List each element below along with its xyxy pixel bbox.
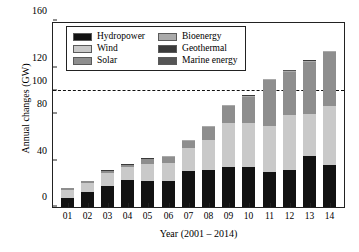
chart-legend: HydropowerBioenergyWindGeothermalSolarMa… — [66, 26, 246, 71]
bar-segment-solar-14 — [323, 52, 336, 105]
legend-swatch-solar — [73, 57, 92, 65]
x-tick-mark-14 — [330, 203, 331, 207]
bar-segment-solar-08 — [202, 127, 215, 140]
x-tick-label-10: 10 — [244, 211, 254, 221]
legend-item-bioenergy[interactable]: Bioenergy — [158, 31, 237, 42]
x-tick-label-11: 11 — [265, 211, 274, 221]
bar-segment-wind-09 — [222, 123, 235, 167]
legend-swatch-wind — [73, 45, 92, 53]
x-tick-label-14: 14 — [325, 211, 335, 221]
bar-segment-solar-11 — [263, 80, 276, 125]
bar-segment-solar-09 — [222, 106, 235, 123]
bar-segment-wind-11 — [263, 126, 276, 173]
legend-label-hydropower: Hydropower — [97, 31, 145, 42]
x-tick-mark-02 — [88, 203, 89, 207]
bar-segment-hydropower-14 — [323, 165, 336, 207]
legend-item-hydropower[interactable]: Hydropower — [73, 31, 145, 42]
bar-column-13[interactable] — [303, 23, 316, 207]
y-tick-label-80: 80 — [13, 98, 53, 109]
x-tick-label-06: 06 — [164, 211, 174, 221]
chart-figure: Annual changes (GW) Year (2001 – 2014) 0… — [0, 0, 359, 252]
x-tick-label-08: 08 — [204, 211, 214, 221]
y-tick-label-120: 120 — [13, 51, 53, 62]
bar-segment-wind-08 — [202, 140, 215, 170]
x-tick-mark-13 — [310, 203, 311, 207]
x-tick-label-05: 05 — [143, 211, 153, 221]
bar-segment-wind-02 — [81, 183, 94, 192]
bar-segment-hydropower-12 — [283, 170, 296, 207]
legend-item-wind[interactable]: Wind — [73, 43, 145, 54]
legend-swatch-geothermal — [158, 45, 177, 53]
legend-label-bioenergy: Bioenergy — [182, 31, 221, 42]
x-tick-mark-11 — [270, 203, 271, 207]
legend-label-solar: Solar — [97, 55, 117, 66]
bar-column-14[interactable] — [323, 23, 336, 207]
x-tick-label-03: 03 — [103, 211, 113, 221]
bar-segment-wind-10 — [242, 123, 255, 167]
legend-item-marine-energy[interactable]: Marine energy — [158, 55, 237, 66]
bar-segment-hydropower-09 — [222, 167, 235, 207]
bar-segment-wind-07 — [182, 148, 195, 171]
x-tick-mark-09 — [229, 203, 230, 207]
legend-label-geothermal: Geothermal — [182, 43, 227, 54]
legend-swatch-hydropower — [73, 33, 92, 41]
x-tick-mark-04 — [128, 203, 129, 207]
x-tick-label-13: 13 — [305, 211, 315, 221]
x-tick-mark-08 — [209, 203, 210, 207]
x-tick-mark-01 — [68, 203, 69, 207]
x-tick-label-01: 01 — [63, 211, 73, 221]
bar-segment-hydropower-07 — [182, 171, 195, 207]
bar-segment-wind-01 — [61, 190, 74, 198]
bar-segment-wind-12 — [283, 115, 296, 170]
bar-column-12[interactable] — [283, 23, 296, 207]
bar-segment-solar-10 — [242, 97, 255, 124]
bar-segment-wind-14 — [323, 106, 336, 165]
legend-label-wind: Wind — [97, 43, 118, 54]
bar-segment-solar-13 — [303, 62, 316, 114]
y-tick-label-100: 100 — [13, 74, 53, 85]
bar-column-11[interactable] — [263, 23, 276, 207]
bar-segment-hydropower-13 — [303, 156, 316, 207]
x-tick-label-09: 09 — [224, 211, 234, 221]
x-tick-mark-06 — [169, 203, 170, 207]
y-tick-label-40: 40 — [13, 144, 53, 155]
bar-segment-wind-05 — [141, 164, 154, 181]
x-tick-label-12: 12 — [285, 211, 295, 221]
x-tick-mark-10 — [249, 203, 250, 207]
x-tick-label-07: 07 — [184, 211, 194, 221]
bar-segment-hydropower-10 — [242, 167, 255, 207]
bar-segment-wind-03 — [101, 173, 114, 186]
legend-swatch-marine-energy — [158, 57, 177, 65]
bar-segment-solar-07 — [182, 141, 195, 148]
y-tick-label-160: 160 — [13, 5, 53, 16]
legend-item-geothermal[interactable]: Geothermal — [158, 43, 237, 54]
x-tick-mark-03 — [108, 203, 109, 207]
bar-segment-wind-06 — [162, 163, 175, 182]
x-tick-mark-12 — [290, 203, 291, 207]
y-tick-label-0: 0 — [13, 191, 53, 202]
x-tick-label-02: 02 — [83, 211, 93, 221]
legend-item-solar[interactable]: Solar — [73, 55, 145, 66]
bar-segment-wind-13 — [303, 114, 316, 156]
x-tick-mark-05 — [148, 203, 149, 207]
legend-label-marine-energy: Marine energy — [182, 55, 237, 66]
bar-segment-wind-04 — [121, 167, 134, 180]
x-axis-title: Year (2001 – 2014) — [52, 228, 345, 239]
x-tick-mark-07 — [189, 203, 190, 207]
y-tick-mark-160 — [53, 20, 57, 21]
x-tick-label-04: 04 — [123, 211, 133, 221]
bar-segment-solar-12 — [283, 72, 296, 115]
bar-segment-hydropower-11 — [263, 172, 276, 207]
bar-segment-hydropower-08 — [202, 170, 215, 207]
legend-swatch-bioenergy — [158, 33, 177, 41]
